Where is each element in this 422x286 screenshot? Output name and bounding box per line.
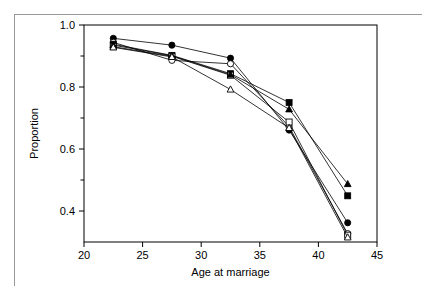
y-tick-label: 0.4 xyxy=(60,205,75,217)
x-tick-label: 45 xyxy=(371,249,383,261)
chart-svg: 2025303540450.40.60.81.0Age at marriageP… xyxy=(0,0,422,286)
y-tick-label: 0.6 xyxy=(60,143,75,155)
x-tick-label: 40 xyxy=(312,249,324,261)
filled-circle-marker xyxy=(345,220,351,226)
x-tick-label: 30 xyxy=(195,249,207,261)
filled-square-marker xyxy=(345,193,351,199)
x-tick-label: 35 xyxy=(254,249,266,261)
open-circle-marker xyxy=(227,61,233,67)
y-axis-title: Proportion xyxy=(28,108,40,159)
y-tick-label: 1.0 xyxy=(60,19,75,31)
figure-container: 2025303540450.40.60.81.0Age at marriageP… xyxy=(0,0,422,286)
x-tick-label: 25 xyxy=(136,249,148,261)
x-tick-label: 20 xyxy=(78,249,90,261)
series-open-circle xyxy=(110,39,351,236)
filled-square-marker xyxy=(286,100,292,106)
filled-circle-marker xyxy=(169,42,175,48)
y-tick-label: 0.8 xyxy=(60,81,75,93)
x-axis-title: Age at marriage xyxy=(191,266,269,278)
open-triangle-marker xyxy=(227,86,234,92)
